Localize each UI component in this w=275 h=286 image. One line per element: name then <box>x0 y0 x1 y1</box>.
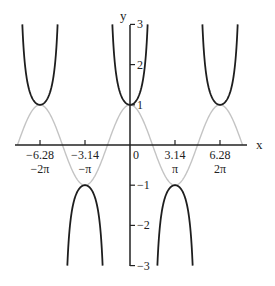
x-axis-label: x <box>256 137 263 152</box>
sec-curve-branch <box>202 24 237 104</box>
x-tick-label: 3.14 <box>164 148 185 162</box>
x-tick-label: −6.28 <box>26 148 54 162</box>
x-tick-label: −3.14 <box>71 148 99 162</box>
y-tick-label: −2 <box>137 218 150 232</box>
x-tick-sublabel: −2π <box>31 162 50 176</box>
x-tick-label: 0 <box>133 148 139 162</box>
sec-curve-branch <box>22 24 57 104</box>
chart: −6.28−2π−3.14−π03.14π6.282π321−1−2−3 x y <box>0 0 275 286</box>
x-tick-sublabel: 2π <box>214 162 226 176</box>
y-tick-label: 1 <box>137 98 143 112</box>
sec-curve-branch <box>67 185 102 265</box>
y-axis-label: y <box>120 8 127 23</box>
y-tick-label: 3 <box>137 17 143 31</box>
y-tick-label: −3 <box>137 259 150 273</box>
x-tick-sublabel: −π <box>79 162 92 176</box>
y-tick-label: −1 <box>137 178 150 192</box>
sec-curve-branch <box>157 185 192 265</box>
x-tick-label: 6.28 <box>209 148 230 162</box>
x-tick-sublabel: π <box>172 162 178 176</box>
axes <box>15 25 247 266</box>
y-tick-label: 2 <box>137 58 143 72</box>
